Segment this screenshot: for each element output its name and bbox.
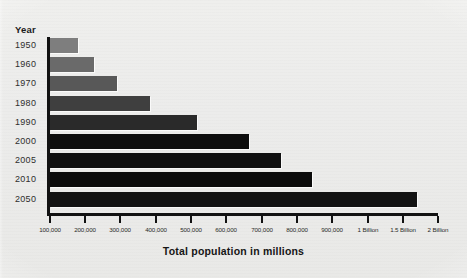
bar-1950 — [50, 38, 78, 53]
x-axis-tick — [331, 216, 333, 223]
x-axis-tick — [84, 216, 86, 223]
bar-2000 — [50, 134, 249, 149]
bar-1980 — [50, 96, 150, 111]
y-axis-tick-label: 1990 — [15, 117, 36, 127]
x-axis-tick-label: 500,000 — [180, 226, 202, 233]
y-axis-tick-label: 1970 — [15, 78, 36, 88]
y-axis-tick-label: 1960 — [15, 59, 36, 69]
x-axis-tick — [190, 216, 192, 223]
x-axis-tick-label: 200,000 — [74, 226, 96, 233]
x-axis-tick-label: 700,000 — [251, 226, 273, 233]
y-axis-tick-label: 2000 — [15, 136, 36, 146]
plot-area: 195019601970198019902000200520102050 100… — [0, 0, 467, 278]
x-axis-tick-label: 900,000 — [321, 226, 343, 233]
bar-1970 — [50, 76, 117, 91]
y-axis-tick-label: 2050 — [15, 194, 36, 204]
x-axis-tick-label: 100,000 — [39, 226, 61, 233]
bar-2005 — [50, 153, 281, 168]
y-axis-tick-label: 1980 — [15, 98, 36, 108]
x-axis-tick-label: 600,000 — [215, 226, 237, 233]
x-axis-tick — [296, 216, 298, 223]
bar-2050 — [50, 192, 417, 207]
bar-2010 — [50, 172, 312, 187]
x-axis-line — [47, 213, 438, 216]
x-axis-tick — [261, 216, 263, 223]
y-axis-tick-label: 2010 — [15, 174, 36, 184]
x-axis-tick-label: 400,000 — [145, 226, 167, 233]
x-axis-tick-label: 1.5 Billion — [390, 226, 416, 233]
chart-figure: Year 19501960197019801990200020052010205… — [0, 0, 467, 278]
x-axis-tick — [225, 216, 227, 223]
x-axis-tick-label: 2 Billion — [428, 226, 449, 233]
bar-1960 — [50, 57, 94, 72]
x-axis-tick-label: 300,000 — [109, 226, 131, 233]
chart-title: Total population in millions — [0, 245, 467, 257]
bar-1990 — [50, 115, 197, 130]
x-axis-tick — [155, 216, 157, 223]
x-axis-tick — [49, 216, 51, 223]
x-axis-tick — [402, 216, 404, 223]
y-axis-tick-label: 1950 — [15, 40, 36, 50]
x-axis-tick-label: 1 Billion — [358, 226, 379, 233]
x-axis-tick — [367, 216, 369, 223]
x-axis-tick — [437, 216, 439, 223]
x-axis-tick-label: 800,000 — [286, 226, 308, 233]
y-axis-tick-label: 2005 — [15, 155, 36, 165]
x-axis-tick — [119, 216, 121, 223]
